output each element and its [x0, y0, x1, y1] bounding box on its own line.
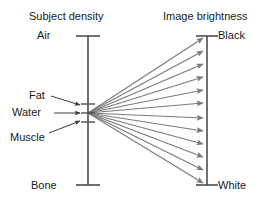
leader-line-muscle [49, 121, 80, 133]
ray-10 [88, 113, 203, 157]
left-axis-label-fat: Fat [29, 90, 45, 101]
left-axis-title: Subject density [29, 11, 104, 22]
ray-fan [88, 38, 203, 183]
radiography-density-brightness-diagram: Subject density Image brightness Air Fat… [0, 0, 258, 208]
ray-12 [88, 113, 203, 183]
right-axis-label-white: White [218, 180, 246, 191]
right-axis-group [196, 36, 218, 185]
left-axis-label-bone: Bone [31, 180, 57, 191]
right-axis-title: Image brightness [163, 11, 247, 22]
leader-line-fat [51, 96, 80, 105]
right-axis-label-black: Black [218, 30, 245, 41]
left-axis-label-air: Air [37, 30, 50, 41]
ray-3 [88, 64, 203, 113]
leader-lines [49, 96, 80, 133]
left-axis-label-water: Water [12, 107, 41, 118]
left-axis-label-muscle: Muscle [10, 132, 45, 143]
